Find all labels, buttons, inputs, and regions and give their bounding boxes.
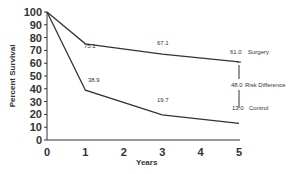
x-tick-label: 4 xyxy=(198,146,205,158)
y-tick-label: 90 xyxy=(30,19,42,31)
y-tick-label: 10 xyxy=(30,121,42,133)
risk-name: Risk Difference xyxy=(245,82,286,88)
label-surgery-y1: 75.1 xyxy=(84,43,96,49)
y-tick-label: 30 xyxy=(30,96,42,108)
x-tick-label: 3 xyxy=(159,146,165,158)
y-tick-label: 60 xyxy=(30,57,42,69)
label-surgery-y3: 67.1 xyxy=(157,40,169,46)
y-tick-label: 100 xyxy=(24,6,42,18)
y-axis-label: Percent Survival xyxy=(8,45,17,108)
x-tick-label: 1 xyxy=(82,146,88,158)
risk-value: 48.0 xyxy=(231,82,243,88)
series-surgery-line xyxy=(47,12,239,62)
y-tick-label: 0 xyxy=(36,134,42,146)
x-tick-label: 5 xyxy=(236,146,242,158)
y-ticks: 0102030405060708090100 xyxy=(24,6,47,146)
y-tick-label: 80 xyxy=(30,32,42,44)
series-control-line xyxy=(47,12,239,123)
series-lines xyxy=(47,12,239,123)
x-ticks: 012345 xyxy=(44,146,242,158)
survival-chart: 0102030405060708090100 012345 75.1 67.1 … xyxy=(0,0,293,174)
y-tick-label: 20 xyxy=(30,108,42,120)
x-axis-label: Years xyxy=(136,158,158,167)
control-value: 13.0 xyxy=(232,105,244,111)
control-name: Control xyxy=(249,105,268,111)
y-tick-label: 50 xyxy=(30,70,42,82)
y-tick-label: 40 xyxy=(30,83,42,95)
surgery-name: Surgery xyxy=(248,49,269,55)
y-tick-label: 70 xyxy=(30,44,42,56)
x-tick-label: 0 xyxy=(44,146,50,158)
label-control-y3: 19.7 xyxy=(157,97,169,103)
surgery-value: 61.0 xyxy=(230,49,242,55)
label-control-y1: 38.9 xyxy=(88,77,100,83)
x-tick-label: 2 xyxy=(121,146,127,158)
